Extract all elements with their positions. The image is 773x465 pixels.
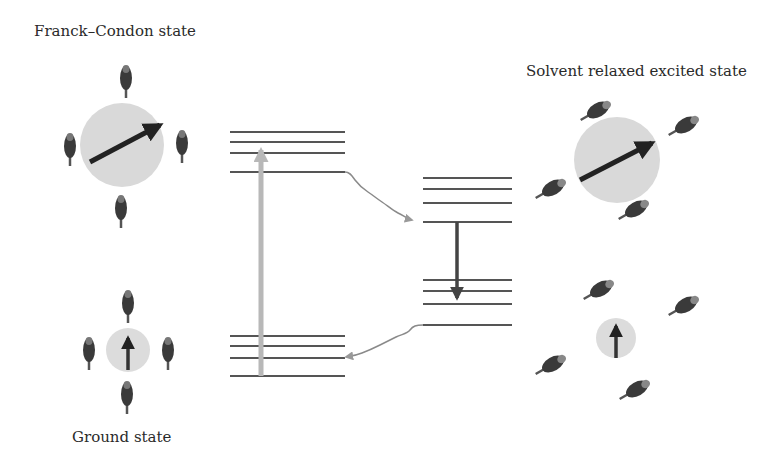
solvent-molecule-icon bbox=[532, 351, 569, 380]
solvent-relaxed-excited-state-label: Solvent relaxed excited state bbox=[526, 62, 747, 80]
solvent-molecule-icon bbox=[532, 175, 569, 204]
solvent-molecule-icon bbox=[616, 376, 653, 405]
solvent-relaxation-excited-arrow-icon bbox=[345, 172, 412, 220]
solvent-molecule-icon bbox=[121, 381, 133, 414]
solvent-molecule-icon bbox=[665, 292, 702, 321]
solvent-molecule-icon bbox=[83, 337, 95, 370]
solvent-molecule-icon bbox=[162, 337, 174, 370]
solvent-molecule-icon bbox=[64, 133, 76, 166]
solvent-molecule-icon bbox=[580, 276, 617, 305]
solvent-molecule-icon bbox=[120, 65, 132, 98]
ground-state-molecule bbox=[83, 290, 174, 414]
energy-levels bbox=[230, 132, 512, 376]
franck-condon-state-label: Franck–Condon state bbox=[34, 22, 196, 40]
solvent-molecule-icon bbox=[122, 290, 134, 323]
solvent-relaxed-excited-molecule bbox=[532, 97, 702, 225]
ground-state-label: Ground state bbox=[72, 428, 171, 446]
solvent-molecule-icon bbox=[176, 130, 188, 163]
relaxed-ground-molecule bbox=[532, 276, 702, 405]
solvent-molecule-icon bbox=[115, 195, 127, 228]
franck-condon-state-molecule bbox=[64, 65, 188, 228]
solvent-relaxation-ground-arrow-icon bbox=[346, 325, 423, 357]
solvent-molecule-icon bbox=[665, 112, 702, 141]
